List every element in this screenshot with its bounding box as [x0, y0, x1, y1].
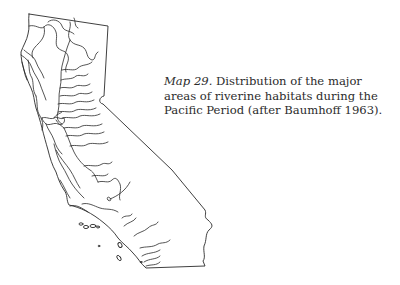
river-eel: [21, 55, 46, 100]
river-kern: [98, 178, 121, 200]
river-kings: [84, 162, 112, 166]
state-outline: [21, 14, 212, 268]
river-coast-4: [22, 62, 27, 80]
island-catalina: [140, 261, 142, 262]
river-central-coast: [60, 180, 70, 198]
island-santa-cruz: [90, 224, 96, 227]
river-feather-2: [61, 74, 88, 80]
river-santa-clara: [82, 203, 118, 212]
island-san-miguel: [79, 223, 83, 225]
river-merced: [70, 142, 108, 146]
river-los-angeles: [122, 214, 132, 218]
river-russian: [36, 96, 43, 130]
river-san-gabriel: [124, 218, 136, 226]
river-tijuana: [146, 262, 160, 266]
river-santa-ana: [134, 222, 158, 236]
island-santa-rosa: [84, 225, 89, 228]
river-eel-2: [24, 50, 44, 78]
river-klamath-2: [32, 27, 45, 58]
river-yuba: [60, 84, 90, 88]
sf-bay-south: [46, 124, 62, 154]
island-san-clemente: [116, 255, 122, 262]
river-stanislaus: [64, 124, 102, 128]
river-san-joaquin: [64, 128, 98, 182]
delta-channels: [54, 112, 64, 128]
island-anacapa: [97, 226, 100, 228]
river-cosumnes: [58, 108, 96, 112]
river-pit: [69, 22, 98, 60]
river-bear: [60, 92, 92, 96]
river-mccloud: [74, 18, 78, 28]
river-tuolumne: [66, 132, 104, 136]
river-san-luis-rey: [140, 240, 170, 248]
river-american: [58, 100, 94, 104]
figure-caption: Map 29. Distribution of the major areas …: [164, 74, 396, 118]
river-salinas: [54, 144, 84, 198]
river-mokelumne: [62, 114, 100, 118]
california-map: [0, 0, 400, 285]
river-san-diego-2: [144, 256, 160, 262]
river-san-diego-1: [142, 250, 160, 256]
island-san-nicolas: [98, 245, 100, 247]
map-number-label: Map 29.: [164, 74, 212, 88]
